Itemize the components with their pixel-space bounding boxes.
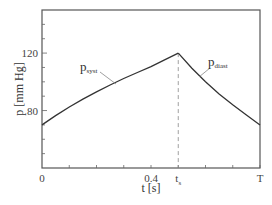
x-tick-label: 0 — [39, 172, 45, 184]
syst-label: psyst — [80, 59, 97, 75]
syst-label-leader — [100, 72, 116, 84]
systolic-pressure-line — [42, 53, 178, 125]
y-axis-label: p [mm Hg] — [12, 62, 26, 115]
x-axis-label: t [s] — [142, 181, 161, 195]
diast-label: pdiast — [208, 54, 228, 70]
pressure-chart: 80120 00.4tsT psyst pdiast t [s] p [mm H… — [0, 0, 272, 205]
x-tick-label: ts — [175, 172, 181, 187]
y-tick-label: 120 — [22, 47, 39, 59]
plot-frame — [42, 10, 260, 168]
y-tick-label: 80 — [27, 105, 39, 117]
diast-label-leader — [199, 68, 210, 77]
x-tick-label: T — [257, 172, 264, 184]
